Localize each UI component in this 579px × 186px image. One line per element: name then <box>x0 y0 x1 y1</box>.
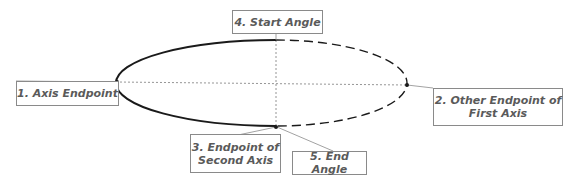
label-text: 3. Endpoint of <box>192 141 279 154</box>
label-start-angle: 4. Start Angle <box>232 10 323 34</box>
label-text: First Axis <box>469 107 527 120</box>
label-text: 5. End Angle <box>293 150 366 176</box>
label-axis-endpoint: 1. Axis Endpoint <box>16 81 119 106</box>
label-endpoint-second-axis: 3. Endpoint of Second Axis <box>190 134 281 173</box>
other-endpoint-dot <box>405 83 409 87</box>
second-axis-endpoint-dot <box>274 125 278 129</box>
first-axis-dotted <box>116 82 407 85</box>
leader-line-5 <box>277 127 333 151</box>
label-other-endpoint-first-axis: 2. Other Endpoint of First Axis <box>433 88 563 126</box>
label-text: Second Axis <box>198 154 273 167</box>
label-text: 1. Axis Endpoint <box>17 87 118 100</box>
label-text: 2. Other Endpoint of <box>435 94 562 107</box>
leader-line-2 <box>407 85 433 88</box>
label-text: 4. Start Angle <box>234 16 320 29</box>
ellipse-arc-dashed <box>276 40 407 126</box>
label-end-angle: 5. End Angle <box>292 151 367 175</box>
